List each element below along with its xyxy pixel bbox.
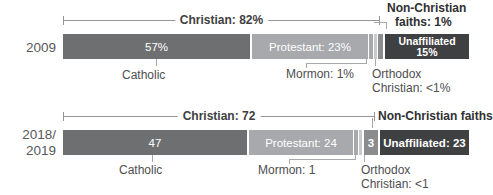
orthodox-callout-2018-line1: Orthodox <box>361 163 410 177</box>
bracket-tick-left <box>63 112 64 121</box>
mormon-bracket-h-2009 <box>306 63 366 64</box>
segment-catholic-label-2018: 47 <box>149 137 162 149</box>
stacked-bar-2009: 57% Protestant: 23% Unaffiliated 15% <box>63 34 469 59</box>
catholic-callout-2018: Catholic <box>119 163 162 177</box>
segment-unaffiliated-label-2009: Unaffiliated 15% <box>398 36 455 58</box>
catholic-leader-2018 <box>152 155 153 162</box>
orthodox-callout-2009-line1: Orthodox <box>372 67 421 81</box>
segment-protestant-2018[interactable]: Protestant: 24 <box>249 130 353 155</box>
mormon-bracket-v-right-2018 <box>355 155 356 160</box>
orthodox-leader-2009 <box>375 59 376 66</box>
catholic-leader-2009 <box>156 59 157 66</box>
non-christian-faiths-header-2009-line2: faiths: 1% <box>395 16 452 29</box>
segment-unaffiliated-label-2018: Unaffiliated: 23 <box>383 137 465 149</box>
mormon-bracket-v-right-2009 <box>366 59 367 64</box>
orthodox-callout-2009-line2: Christian: <1% <box>372 81 450 95</box>
segment-unaffiliated-2009[interactable]: Unaffiliated 15% <box>385 34 469 59</box>
mormon-callout-2018: Mormon: 1 <box>258 163 315 177</box>
segment-protestant-2009[interactable]: Protestant: 23% <box>252 34 368 59</box>
mormon-callout-2009: Mormon: 1% <box>286 67 354 81</box>
segment-catholic-2018[interactable]: 47 <box>63 130 247 155</box>
segment-non-christian-label-2018: 3 <box>368 137 374 149</box>
bracket-tick-right <box>379 16 380 25</box>
year-label-2018-line1: 2018/ <box>6 128 56 142</box>
mormon-bracket-h-2018 <box>289 159 355 160</box>
non-christian-faiths-header-2009-line1: Non-Christian <box>387 2 466 15</box>
stacked-bar-2018: 47 Protestant: 24 3 Unaffiliated: 23 <box>63 130 469 155</box>
year-label-2009: 2009 <box>6 41 56 55</box>
christian-total-label-2009: Christian: 82% <box>175 13 268 27</box>
segment-unaffiliated-label-2009-line2: 15% <box>416 46 437 58</box>
christian-total-label-2018: Christian: 72 <box>178 109 261 123</box>
bracket-tick-left <box>63 16 64 25</box>
non-christian-leader-h-2009 <box>374 22 386 23</box>
non-christian-faiths-header-2018: Non-Christian faiths <box>378 110 493 123</box>
christian-bracket-2018: Christian: 72 <box>63 110 375 122</box>
bracket-tick-right <box>374 112 375 121</box>
orthodox-leader-2018 <box>364 155 365 162</box>
segment-protestant-label-2009: Protestant: 23% <box>269 41 351 53</box>
segment-protestant-label-2018: Protestant: 24 <box>265 137 337 149</box>
year-label-2018-line2: 2019 <box>6 144 56 158</box>
orthodox-callout-2018-line2: Christian: <1 <box>361 177 429 191</box>
catholic-callout-2009: Catholic <box>122 68 165 82</box>
segment-unaffiliated-2018[interactable]: Unaffiliated: 23 <box>380 130 469 155</box>
segment-catholic-2009[interactable]: 57% <box>63 34 250 59</box>
non-christian-leader-v-2018 <box>372 118 373 128</box>
non-christian-leader-v-2009 <box>386 22 387 29</box>
segment-non-christian-faiths-2018[interactable]: 3 <box>364 130 378 155</box>
segment-catholic-label-2009: 57% <box>145 41 168 53</box>
christian-bracket-2009: Christian: 82% <box>63 14 380 26</box>
